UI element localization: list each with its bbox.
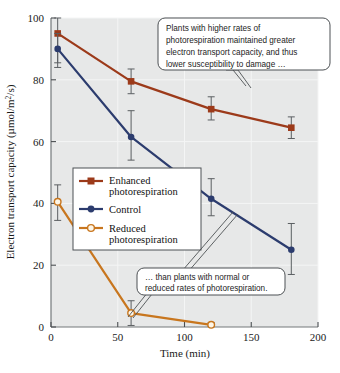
x-tick-label-150: 150 [243,331,260,343]
x-axis-title: Time (min) [160,347,210,360]
data-point [128,78,135,85]
data-point [288,246,295,253]
callout-top-line-1: Plants with higher rates of [166,24,261,33]
data-point [208,106,215,113]
y-axis-title: Electron transport capacity (µmol/m2/s) [4,84,17,259]
legend-label-enhanced-line1: Enhanced [109,175,151,186]
y-tick-label-20: 20 [33,259,45,271]
y-axis-title-tail: /s) [4,84,17,95]
figure-container: 020406080100 050100150200 Electron trans… [0,0,340,373]
x-tick-label-200: 200 [310,331,327,343]
data-point [208,322,215,329]
callout-bottom-line-2: reduced rates of photorespiration. [145,284,267,293]
chart-canvas: 020406080100 050100150200 Electron trans… [0,0,340,373]
x-axis-tick-labels: 050100150200 [48,331,327,343]
callout-bottom-line-1: … than plants with normal or [145,273,249,282]
data-point [54,199,61,206]
legend-marker-control-filled-circle [88,206,95,213]
callout-top-line-3: electron transport capacity, and thus [166,48,297,57]
svg-text:Electron transport capacity (µ: Electron transport capacity (µmol/m2/s) [4,84,17,259]
y-tick-label-60: 60 [33,136,45,148]
data-point [288,124,295,131]
y-tick-label-100: 100 [28,12,45,24]
x-tick-label-0: 0 [48,331,54,343]
data-point [208,195,215,202]
legend-marker-enhanced-filled-square [88,178,95,185]
data-point [54,46,61,53]
y-axis-title-main: Electron transport capacity (µmol/m [4,99,17,259]
y-tick-label-80: 80 [33,74,45,86]
y-axis-tick-labels: 020406080100 [28,12,45,333]
legend-label-reduced-line1: Reduced [109,223,146,234]
legend-marker-reduced-open-circle [88,225,95,232]
x-tick-label-50: 50 [112,331,124,343]
data-point [128,134,135,141]
callout-top-line-4: lower susceptibility to damage … [166,60,286,69]
y-tick-label-40: 40 [33,197,45,209]
chart-legend: Enhanced photorespiration Control Reduce… [73,168,201,250]
x-tick-label-100: 100 [176,331,193,343]
legend-label-control-line1: Control [109,204,141,215]
legend-label-reduced-line2: photorespiration [109,234,179,245]
legend-label-enhanced-line2: photorespiration [109,186,179,197]
y-tick-label-0: 0 [39,321,45,333]
callout-top-line-2: photorespiration maintained greater [166,36,296,45]
